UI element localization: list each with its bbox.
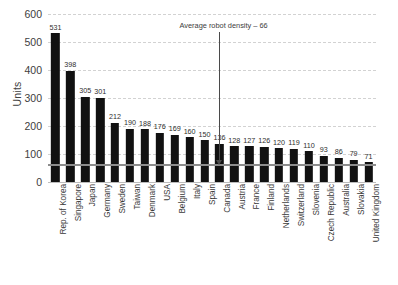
- bar-slot: 301: [93, 14, 108, 182]
- bar-value-label: 212: [109, 112, 121, 121]
- bar-slot: 150: [197, 14, 212, 182]
- x-axis-label: Belgium: [178, 184, 187, 214]
- bar-slot: 190: [123, 14, 138, 182]
- x-axis-label: Singapore: [74, 184, 83, 221]
- bar: [335, 158, 343, 182]
- bar-value-label: 86: [335, 147, 343, 156]
- x-axis-label: Czech Republic: [327, 184, 336, 241]
- x-axis-category-labels: Rep. of KoreaSingaporeJapanGermanySweden…: [48, 182, 376, 285]
- bar-slot: 398: [63, 14, 78, 182]
- y-axis-tick-600: 600: [24, 8, 42, 20]
- x-axis-label: Japan: [88, 184, 97, 206]
- bar-value-label: 128: [228, 136, 240, 145]
- bar-value-label: 398: [64, 60, 76, 69]
- bar-slot: 93: [316, 14, 331, 182]
- bar: [185, 137, 193, 182]
- bar: [126, 129, 134, 182]
- bar: [171, 135, 179, 182]
- bar-slot: 128: [227, 14, 242, 182]
- bar-value-label: 169: [169, 124, 181, 133]
- bar-value-label: 188: [139, 119, 151, 128]
- y-axis-tick-0: 0: [36, 176, 42, 188]
- x-axis-label: Spain: [208, 184, 217, 205]
- average-robot-density-annotation: Average robot density – 66: [179, 21, 267, 30]
- y-axis-tick-100: 100: [24, 148, 42, 160]
- bar-slot: 160: [182, 14, 197, 182]
- bar-value-label: 150: [199, 130, 211, 139]
- bar-slot: 169: [167, 14, 182, 182]
- bar-value-label: 190: [124, 118, 136, 127]
- bar-value-label: 176: [154, 122, 166, 131]
- x-axis-label: Denmark: [148, 184, 157, 217]
- bar-slot: 86: [331, 14, 346, 182]
- annotation-arrow-head: [216, 160, 222, 165]
- bar: [81, 97, 89, 182]
- x-axis-label: Italy: [193, 184, 202, 199]
- bar: [96, 98, 104, 182]
- x-axis-label: Finland: [267, 184, 276, 211]
- bar-series: 5313983053012121901881761691601501361281…: [48, 14, 376, 182]
- x-axis-label: Taiwan: [133, 184, 142, 210]
- x-axis-label: Canada: [223, 184, 232, 213]
- bar-slot: 119: [287, 14, 302, 182]
- x-axis-label: Australia: [342, 184, 351, 216]
- bar: [111, 123, 119, 182]
- x-axis-label: Switzerland: [297, 184, 306, 226]
- bar-slot: 120: [272, 14, 287, 182]
- x-axis-label: Slovakia: [357, 184, 366, 215]
- y-axis-tick-500: 500: [24, 36, 42, 48]
- bar-value-label: 119: [288, 138, 299, 147]
- x-axis-label: France: [252, 184, 261, 209]
- x-axis-label: United Kingdom: [372, 184, 381, 242]
- bar-slot: 110: [301, 14, 316, 182]
- x-axis-label: Germany: [103, 184, 112, 218]
- x-axis-label: Netherlands: [282, 184, 291, 228]
- average-reference-line: [48, 164, 376, 166]
- bar-slot: 127: [242, 14, 257, 182]
- x-axis-label: Sweden: [118, 184, 127, 214]
- bar: [51, 33, 59, 182]
- bar-value-label: 127: [243, 136, 255, 145]
- bar-slot: 305: [78, 14, 93, 182]
- bar-slot: 212: [108, 14, 123, 182]
- bar-value-label: 120: [273, 138, 285, 147]
- y-axis-tick-400: 400: [24, 64, 42, 76]
- y-axis-tick-200: 200: [24, 120, 42, 132]
- plot-area: 5313983053012121901881761691601501361281…: [48, 14, 376, 182]
- bar-slot: 188: [137, 14, 152, 182]
- bar-value-label: 301: [94, 87, 106, 96]
- x-axis-label: USA: [163, 184, 172, 201]
- x-axis-label: Austria: [238, 184, 247, 209]
- bar: [156, 133, 164, 182]
- bar-slot: 71: [361, 14, 376, 182]
- bar-slot: 126: [257, 14, 272, 182]
- bar: [141, 129, 149, 182]
- annotation-arrow-line: [219, 32, 220, 160]
- bar: [305, 151, 313, 182]
- y-axis-tick-300: 300: [24, 92, 42, 104]
- bar: [200, 140, 208, 182]
- bar-slot: 531: [48, 14, 63, 182]
- y-axis-tick-labels: 0100200300400500600: [0, 0, 46, 190]
- bar-value-label: 110: [303, 141, 314, 150]
- x-axis-label: Slovenia: [312, 184, 321, 215]
- bar-value-label: 305: [79, 86, 91, 95]
- bar-slot: 79: [346, 14, 361, 182]
- bar-value-label: 71: [365, 152, 373, 161]
- bar-value-label: 126: [258, 136, 270, 145]
- bar-value-label: 160: [184, 127, 196, 136]
- bar-slot: 176: [152, 14, 167, 182]
- x-axis-label: Rep. of Korea: [59, 184, 68, 235]
- bar-chart: Units 0100200300400500600 53139830530121…: [0, 0, 398, 285]
- bar-value-label: 79: [350, 149, 358, 158]
- bar-value-label: 93: [320, 145, 328, 154]
- bar: [320, 156, 328, 182]
- bar-value-label: 531: [49, 23, 61, 32]
